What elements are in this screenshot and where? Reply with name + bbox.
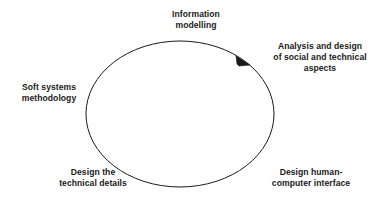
cycle-diagram: Information modelling Analysis and desig… bbox=[0, 0, 384, 199]
clockwise-arrowhead-icon bbox=[236, 56, 250, 66]
node-label-design-technical: Design the technical details bbox=[38, 167, 148, 189]
node-label-design-hci: Design human- computer interface bbox=[252, 167, 370, 189]
node-label-information-modelling: Information modelling bbox=[140, 9, 252, 31]
node-label-analysis-design: Analysis and design of social and techni… bbox=[258, 41, 382, 75]
node-label-soft-systems: Soft systems methodology bbox=[8, 82, 90, 104]
